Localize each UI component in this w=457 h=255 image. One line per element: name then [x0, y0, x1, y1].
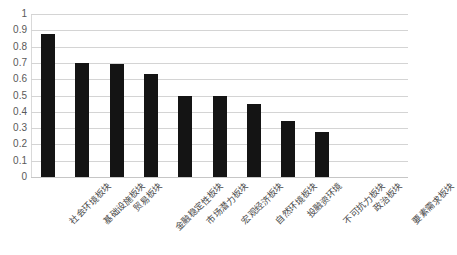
bar[interactable]	[247, 104, 261, 177]
y-axis-tick-label: 1	[21, 9, 27, 19]
y-axis-tick-label: 0.7	[13, 58, 27, 68]
bar[interactable]	[213, 96, 227, 177]
bar[interactable]	[144, 74, 158, 177]
y-axis-tick-label: 0.8	[13, 42, 27, 52]
x-axis-tick-labels: 社会环境板块基础设施板块贸易板块金融稳定性板块市场潜力板块宏观经济板块自然环境板…	[31, 178, 408, 255]
bar[interactable]	[178, 96, 192, 178]
bar[interactable]	[281, 121, 295, 177]
y-axis-tick-label: 0.4	[13, 107, 27, 117]
y-axis-tick-labels: 10.90.80.70.60.50.40.30.20.10	[0, 14, 27, 177]
y-axis-tick-label: 0.5	[13, 91, 27, 101]
gridline	[31, 30, 408, 31]
plot-area	[31, 14, 408, 177]
y-axis-tick-label: 0.6	[13, 74, 27, 84]
bar[interactable]	[110, 64, 124, 177]
y-axis-tick-label: 0.9	[13, 25, 27, 35]
x-axis-tick-label: 要素需求板块	[411, 181, 457, 227]
bar[interactable]	[41, 34, 55, 177]
gridline	[31, 14, 408, 15]
gridline	[31, 47, 408, 48]
bar[interactable]	[315, 132, 329, 177]
y-axis-tick-label: 0	[21, 172, 27, 182]
y-axis-tick-label: 0.1	[13, 156, 27, 166]
y-axis-tick-label: 0.3	[13, 123, 27, 133]
bar[interactable]	[75, 63, 89, 177]
y-axis-tick-label: 0.2	[13, 139, 27, 149]
